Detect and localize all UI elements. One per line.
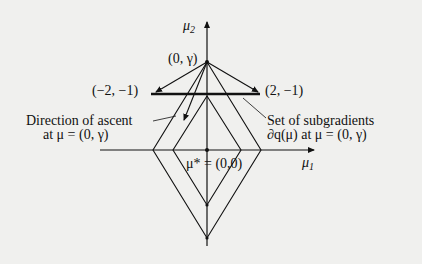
ascent-direction-arrow [184,62,207,120]
label-origin: μ* = (0,0) [186,157,242,171]
label-right-point: (2, −1) [265,84,303,98]
point-top [205,60,209,64]
subgrad-annotation-line2: ∂q(μ) at μ = (0, γ) [267,128,367,142]
subgrad-annotation-line1: Set of subgradients [267,114,374,128]
mu1-label: μ1 [302,156,314,174]
subgradient-left-vector [156,62,207,92]
subgradient-right-vector [207,62,258,92]
label-top-point: (0, γ) [168,52,198,66]
mu2-label: μ2 [183,19,195,37]
ascent-annotation-line2: at μ = (0, γ) [43,128,109,142]
subgrad-leader [243,98,266,118]
label-left-point: (−2, −1) [92,84,138,98]
point-outer-bottom [205,236,208,239]
point-inner-bottom [205,203,208,206]
ascent-annotation-line1: Direction of ascent [26,114,133,128]
point-origin [205,148,209,152]
